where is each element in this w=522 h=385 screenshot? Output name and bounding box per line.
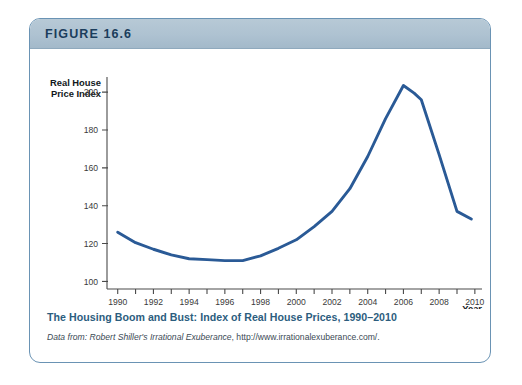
x-tick-label: 1990 — [108, 297, 127, 307]
x-axis-ticks — [118, 289, 475, 294]
x-tick-label: 2006 — [394, 297, 413, 307]
x-tick-label: 2004 — [358, 297, 377, 307]
y-tick-label: 140 — [84, 201, 99, 211]
figure-header: FIGURE 16.6 — [30, 19, 490, 49]
figure-card: FIGURE 16.6 Real House Price Index 10012… — [29, 18, 491, 363]
y-tick-label: 120 — [84, 239, 99, 249]
x-tick-label: 2000 — [287, 297, 306, 307]
source-book-title: Irrational Exuberance — [150, 332, 232, 342]
house-price-index-line-chart: Real House Price Index 10012014016018020… — [30, 49, 491, 309]
y-tick-label: 180 — [84, 125, 99, 135]
data-series-line — [118, 86, 472, 261]
source-suffix: , http://www.irrationalexuberance.com/. — [232, 332, 380, 342]
chart-plot-region: Real House Price Index 10012014016018020… — [30, 49, 491, 309]
y-tick-label: 100 — [84, 277, 99, 287]
figure-caption-region: The Housing Boom and Bust: Index of Real… — [30, 311, 491, 342]
figure-source-note: Data from: Robert Shiller's Irrational E… — [47, 332, 475, 342]
y-axis-ticks: 100120140160180200 — [84, 87, 108, 286]
figure-number-label: FIGURE 16.6 — [45, 27, 132, 41]
source-prefix: Data from: Robert Shiller's — [47, 332, 150, 342]
x-tick-label: 1996 — [215, 297, 234, 307]
x-tick-label: 1994 — [180, 297, 199, 307]
x-tick-label: 1998 — [251, 297, 270, 307]
x-axis-title: Year — [462, 303, 482, 309]
figure-caption-title: The Housing Boom and Bust: Index of Real… — [47, 311, 475, 323]
x-axis-tick-labels: 1990199219941996199820002002200420062008… — [108, 297, 484, 307]
y-tick-label: 200 — [84, 87, 99, 97]
x-tick-label: 2008 — [430, 297, 449, 307]
x-tick-label: 2002 — [322, 297, 341, 307]
x-tick-label: 1992 — [144, 297, 163, 307]
y-tick-label: 160 — [84, 163, 99, 173]
